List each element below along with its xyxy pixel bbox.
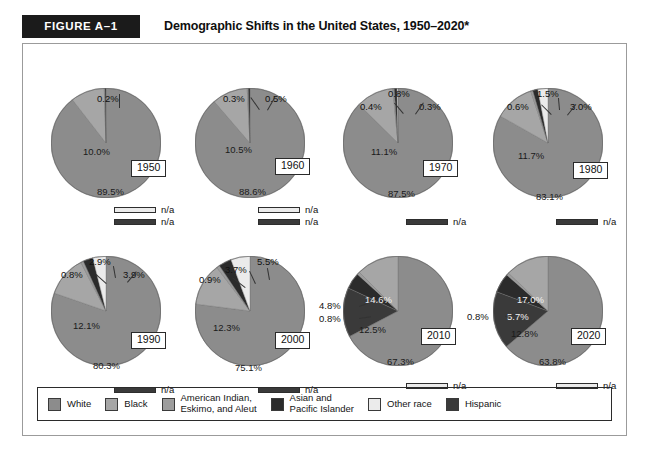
legend-swatch-icon <box>368 398 381 411</box>
slice-label-american-indian: 0.8% <box>319 313 341 324</box>
pie-chart-2010: 67.3%12.5%14.6%4.8%0.8%2010n/a <box>323 222 473 390</box>
slice-label-american-indian: 0.9% <box>199 274 221 285</box>
legend-item-label: White <box>67 399 91 410</box>
slice-label-american-indian: 0.4% <box>360 101 382 112</box>
slice-label-asian-pacific: 0.5% <box>265 93 287 104</box>
pie-graphic <box>343 256 453 366</box>
slice-label-asian-pacific: 5.7% <box>507 311 529 322</box>
figure-number-badge: FIGURE A–1 <box>22 15 140 38</box>
pie-graphic <box>51 88 161 198</box>
slice-label-white: 88.6% <box>239 186 266 197</box>
slice-label-black: 11.1% <box>371 146 397 157</box>
legend-swatch-icon <box>162 398 175 411</box>
year-label-1990: 1990 <box>131 332 166 349</box>
legend-item-label: Other race <box>387 399 432 410</box>
year-label-1960: 1960 <box>275 158 310 175</box>
slice-label-black: 10.0% <box>83 146 110 157</box>
pie-chart-1990: 80.3%12.1%2.9%0.8%3.9%1990n/a <box>31 222 181 390</box>
slice-label-white: 75.1% <box>235 362 262 373</box>
legend-item-label: Hispanic <box>465 399 501 410</box>
legend-item-asian: Asian and Pacific Islander <box>271 393 354 415</box>
legend-item-black: Black <box>105 398 147 411</box>
slice-label-black: 12.3% <box>213 322 240 333</box>
slice-label-american-indian: 0.8% <box>61 269 83 280</box>
slice-label-white: 80.3% <box>93 360 120 371</box>
slice-label-american-indian: 0.3% <box>223 93 245 104</box>
year-label-2000: 2000 <box>275 332 310 349</box>
slice-label-hispanic: 17.0% <box>517 294 544 305</box>
leader-line <box>119 94 120 108</box>
legend-swatch-icon <box>105 398 118 411</box>
figure-title: Demographic Shifts in the United States,… <box>164 19 469 33</box>
pie-chart-1950: 89.5%10.0%0.2%1950n/an/a <box>31 54 181 222</box>
year-label-1980: 1980 <box>573 162 608 179</box>
legend-item-hispanic: Hispanic <box>446 398 501 411</box>
slice-label-asian-pacific: 2.9% <box>89 256 111 267</box>
year-label-2020: 2020 <box>571 328 606 345</box>
pie-chart-2000: 75.1%12.3%5.5%3.7%0.9%2000n/a <box>175 222 325 390</box>
slice-label-asian-pacific: 0.8% <box>388 88 410 99</box>
slice-label-black: 10.5% <box>225 144 252 155</box>
year-label-1950: 1950 <box>131 160 166 177</box>
pie-chart-1970: 87.5%11.1%0.8%0.4%0.3%1970n/a <box>323 54 473 222</box>
slice-label-white: 67.3% <box>387 356 414 367</box>
pie-chart-grid: 89.5%10.0%0.2%1950n/an/a88.6%10.5%0.3%0.… <box>23 44 628 384</box>
slice-label-white: 87.5% <box>388 188 415 199</box>
chart-legend: WhiteBlackAmerican Indian, Eskimo, and A… <box>37 387 612 421</box>
na-row: n/a <box>258 204 318 215</box>
figure-page: FIGURE A–1 Demographic Shifts in the Uni… <box>0 0 652 451</box>
slice-label-white: 89.5% <box>97 186 124 197</box>
na-text: n/a <box>161 204 174 215</box>
legend-item-label: Asian and Pacific Islander <box>290 393 354 415</box>
na-swatch-icon <box>114 207 156 213</box>
figure-header: FIGURE A–1 Demographic Shifts in the Uni… <box>22 14 469 38</box>
slice-label-asian-pacific: 4.8% <box>319 300 341 311</box>
legend-swatch-icon <box>446 398 459 411</box>
slice-label-american-indian: 0.6% <box>507 101 529 112</box>
slice-label-black: 12.5% <box>359 324 386 335</box>
legend-swatch-icon <box>271 398 284 411</box>
legend-item-label: Black <box>124 399 147 410</box>
legend-item-label: American Indian, Eskimo, and Aleut <box>181 393 257 415</box>
legend-swatch-icon <box>48 398 61 411</box>
year-label-1970: 1970 <box>423 160 458 177</box>
na-text: n/a <box>305 204 318 215</box>
slice-label-asian-pacific: 3.7% <box>225 264 247 275</box>
legend-item-american: American Indian, Eskimo, and Aleut <box>162 393 257 415</box>
legend-item-other: Other race <box>368 398 432 411</box>
slice-label-other-race: 5.5% <box>257 256 279 267</box>
slice-label-american-indian: 0.2% <box>97 93 119 104</box>
slice-label-white: 63.8% <box>539 356 566 367</box>
pie-chart-1980: 83.1%11.7%1.5%0.6%3.0%1980n/a <box>473 54 623 222</box>
slice-label-black: 12.1% <box>73 320 100 331</box>
slice-label-white: 83.1% <box>536 191 563 202</box>
slice-label-black: 12.8% <box>511 328 538 339</box>
legend-item-white: White <box>48 398 91 411</box>
pie-chart-1960: 88.6%10.5%0.3%0.5%1960n/an/a <box>175 54 325 222</box>
na-swatch-icon <box>258 207 300 213</box>
slice-label-black: 11.7% <box>518 150 544 161</box>
slice-label-american-indian: 0.8% <box>467 311 489 322</box>
na-row: n/a <box>114 204 174 215</box>
slice-label-asian-pacific: 1.5% <box>537 88 559 99</box>
year-label-2010: 2010 <box>421 328 456 345</box>
pie-chart-2020: 63.8%12.8%17.0%5.7%0.8%2020n/a <box>473 222 623 390</box>
figure-frame: 89.5%10.0%0.2%1950n/an/a88.6%10.5%0.3%0.… <box>22 43 627 436</box>
pie-graphic <box>195 88 305 198</box>
